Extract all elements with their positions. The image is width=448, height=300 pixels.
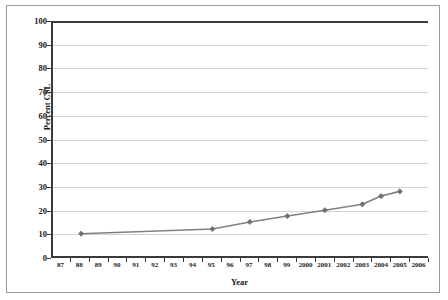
y-axis-tick-label: 40 <box>17 159 47 168</box>
x-axis-title: Year <box>51 277 428 287</box>
x-axis-tick-label: 96 <box>227 262 234 269</box>
x-axis-tick-label: 97 <box>245 262 252 269</box>
y-axis-tick-label: 100 <box>17 17 47 26</box>
x-axis-tick-label: 2004 <box>374 262 388 269</box>
x-axis-tick-label: 2003 <box>355 262 369 269</box>
data-point-marker <box>247 219 252 224</box>
x-axis-tick-label: 2002 <box>336 262 350 269</box>
data-point-marker <box>360 202 365 207</box>
y-axis-tick-label: 10 <box>17 230 47 239</box>
x-axis-tick-label: 95 <box>208 262 215 269</box>
x-axis-tick-labels: 8788899091929394959697989920002001200220… <box>51 262 428 276</box>
x-axis-tick-label: 2001 <box>317 262 331 269</box>
y-axis-tick-label: 50 <box>17 136 47 145</box>
x-axis-tick-label: 93 <box>170 262 177 269</box>
y-axis-tick-label: 0 <box>17 254 47 263</box>
chart-frame: Percent CSL 0102030405060708090100 87888… <box>6 5 440 293</box>
x-axis-tick-label: 2006 <box>412 262 426 269</box>
y-axis-tick-label: 70 <box>17 88 47 97</box>
data-point-marker <box>210 226 215 231</box>
x-axis-tick-label: 87 <box>57 262 64 269</box>
data-point-marker <box>397 189 402 194</box>
x-axis-tick-label: 90 <box>113 262 120 269</box>
x-axis-tick-label: 89 <box>95 262 102 269</box>
x-axis-tick-label: 91 <box>132 262 139 269</box>
data-point-marker <box>285 213 290 218</box>
x-axis-tick-label: 94 <box>189 262 196 269</box>
y-axis-tick-label: 30 <box>17 183 47 192</box>
x-axis-tick-label: 92 <box>151 262 158 269</box>
data-point-marker <box>79 231 84 236</box>
y-axis-tick-labels: 0102030405060708090100 <box>13 21 47 258</box>
x-axis-tick-mark <box>428 258 429 262</box>
x-axis-tick-label: 2005 <box>393 262 407 269</box>
data-point-marker <box>322 208 327 213</box>
series-line-chart <box>53 21 428 256</box>
y-axis-tick-label: 90 <box>17 41 47 50</box>
series-line <box>81 191 400 233</box>
x-axis-tick-label: 2000 <box>298 262 312 269</box>
plot-area <box>51 21 428 258</box>
data-point-marker <box>379 193 384 198</box>
x-axis-tick-label: 88 <box>76 262 83 269</box>
y-axis-tick-label: 60 <box>17 112 47 121</box>
y-axis-tick-label: 20 <box>17 207 47 216</box>
x-axis-tick-label: 98 <box>264 262 271 269</box>
x-axis-tick-label: 99 <box>283 262 290 269</box>
y-axis-tick-label: 80 <box>17 64 47 73</box>
